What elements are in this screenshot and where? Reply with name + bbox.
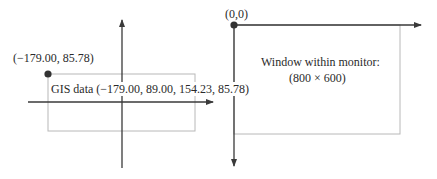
origin-label: (0,0)	[225, 7, 248, 21]
window-label-line1: Window within monitor:	[261, 55, 380, 69]
gis-box-label: GIS data (−179.00, 89.00, 154.23, 85.78)	[51, 82, 249, 96]
gis-corner-dot	[44, 70, 51, 77]
gis-corner-label: (−179.00, 85.78)	[13, 51, 94, 65]
window-label-line2: (800 × 600)	[289, 71, 346, 85]
right-coordinate-system	[230, 21, 421, 166]
origin-dot	[230, 21, 237, 28]
